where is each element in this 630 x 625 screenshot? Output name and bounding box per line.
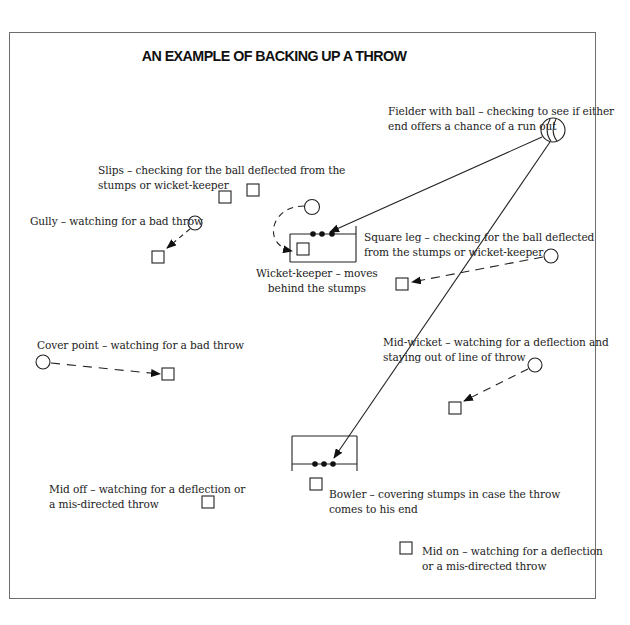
cover-point-move-arrow bbox=[51, 363, 160, 374]
label-line: Mid off – watching for a deflection or bbox=[49, 482, 245, 497]
square-leg-position-square bbox=[396, 278, 408, 290]
label-slips: Slips – checking for the ball deflected … bbox=[98, 163, 345, 193]
label-line: Mid-wicket – watching for a deflection a… bbox=[383, 335, 609, 350]
mid-on-position-square bbox=[400, 542, 412, 554]
label-line: or a mis-directed throw bbox=[422, 559, 603, 574]
label-line: Slips – checking for the ball deflected … bbox=[98, 163, 345, 178]
label-line: Wicket-keeper – moves bbox=[256, 266, 378, 281]
label-line: end offers a chance of a run out bbox=[388, 119, 614, 134]
bowler-position-square bbox=[310, 478, 322, 490]
label-line: Square leg – checking for the ball defle… bbox=[364, 230, 594, 245]
label-cover-point: Cover point – watching for a bad throw bbox=[37, 338, 244, 353]
label-gully: Gully – watching for a bad throw bbox=[30, 214, 203, 229]
label-line: stumps or wicket-keeper bbox=[98, 178, 345, 193]
throw-line-to-bowler bbox=[334, 142, 550, 458]
label-mid-wicket: Mid-wicket – watching for a deflection a… bbox=[383, 335, 609, 365]
label-line: behind the stumps bbox=[256, 281, 378, 296]
label-line: staying out of line of throw bbox=[383, 350, 609, 365]
label-line: Cover point – watching for a bad throw bbox=[37, 338, 244, 353]
label-fielder-with-ball: Fielder with ball – checking to see if e… bbox=[388, 104, 614, 134]
cover-point-start-circle bbox=[36, 355, 50, 369]
field-diagram bbox=[0, 0, 630, 625]
label-line: Bowler – covering stumps in case the thr… bbox=[329, 487, 560, 502]
label-mid-on: Mid on – watching for a deflection or a … bbox=[422, 544, 603, 574]
label-line: from the stumps or wicket-keeper bbox=[364, 245, 594, 260]
gully-position-square bbox=[152, 251, 164, 263]
keeper-start-circle bbox=[305, 200, 320, 215]
square-leg-move-arrow bbox=[412, 257, 543, 282]
label-square-leg: Square leg – checking for the ball defle… bbox=[364, 230, 594, 260]
label-wicket-keeper: Wicket-keeper – moves behind the stumps bbox=[256, 266, 378, 296]
label-mid-off: Mid off – watching for a deflection or a… bbox=[49, 482, 245, 512]
cover-point-position-square bbox=[162, 368, 174, 380]
label-line: Gully – watching for a bad throw bbox=[30, 214, 203, 229]
label-line: Mid on – watching for a deflection bbox=[422, 544, 603, 559]
label-line: comes to his end bbox=[329, 502, 560, 517]
label-line: a mis-directed throw bbox=[49, 497, 245, 512]
throw-line-to-keeper bbox=[330, 137, 542, 232]
gully-move-arrow bbox=[167, 229, 190, 248]
keeper-position-square bbox=[297, 243, 309, 255]
mid-wicket-position-square bbox=[449, 402, 461, 414]
mid-wicket-move-arrow bbox=[464, 369, 528, 401]
stumps-icon bbox=[312, 461, 336, 467]
label-line: Fielder with ball – checking to see if e… bbox=[388, 104, 614, 119]
label-bowler: Bowler – covering stumps in case the thr… bbox=[329, 487, 560, 517]
stumps-icon bbox=[310, 231, 335, 237]
